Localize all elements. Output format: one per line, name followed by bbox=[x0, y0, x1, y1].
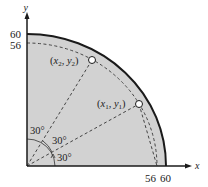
x-tick-60: 60 bbox=[160, 172, 172, 184]
angle-label-top: 30° bbox=[30, 125, 45, 136]
angle-label-bottom: 30° bbox=[57, 152, 72, 163]
quarter-circle-diagram: y x 60 56 56 60 (x2, y2) (x1, y1) 30° 30… bbox=[0, 0, 208, 187]
x-axis-label: x bbox=[194, 160, 200, 171]
y-axis-label: y bbox=[23, 2, 29, 13]
x-axis-arrow-icon bbox=[185, 164, 192, 169]
point-p2-marker bbox=[89, 57, 96, 64]
point-p1-marker bbox=[136, 101, 143, 108]
x-tick-56: 56 bbox=[145, 172, 157, 184]
angle-label-middle: 30° bbox=[52, 135, 67, 146]
y-axis-arrow-icon bbox=[25, 12, 30, 19]
y-tick-56: 56 bbox=[10, 39, 22, 51]
